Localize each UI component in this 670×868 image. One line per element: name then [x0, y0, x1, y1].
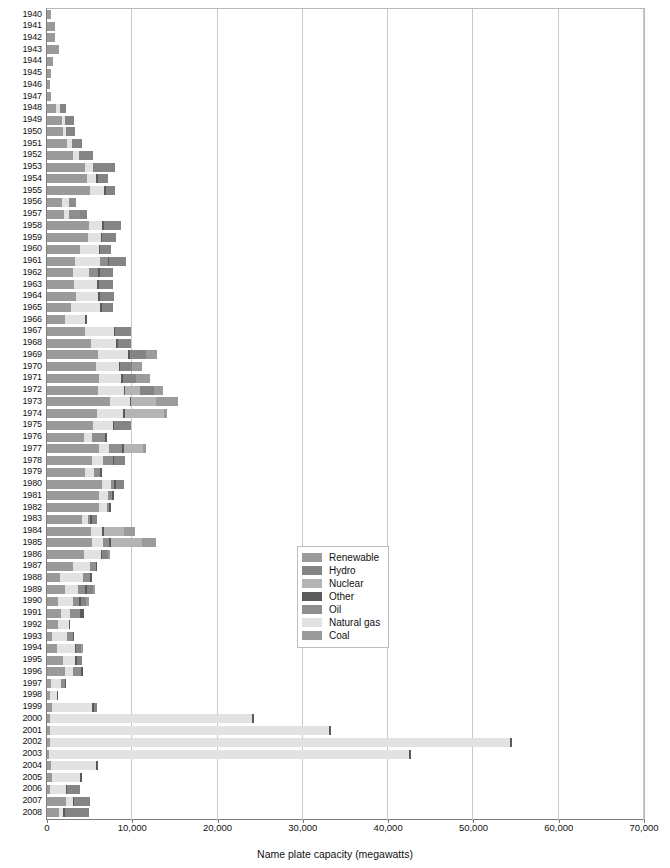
bar-segment: [61, 609, 70, 618]
y-axis-label: 1977: [0, 443, 42, 453]
bar-row: [47, 550, 110, 559]
bar-row: [47, 45, 59, 54]
bar-segment: [47, 444, 99, 453]
bar-segment: [79, 151, 93, 160]
y-axis-label: 1945: [0, 67, 42, 77]
bars-layer: [47, 9, 645, 819]
bar-segment: [57, 691, 58, 700]
bar-segment: [47, 257, 75, 266]
bar-segment: [106, 186, 115, 195]
bar-segment: [69, 210, 80, 219]
bar-segment: [60, 573, 83, 582]
bar-row: [47, 22, 55, 31]
bar-segment: [146, 350, 157, 359]
bar-segment: [125, 409, 164, 418]
y-axis-label: 1989: [0, 584, 42, 594]
bar-segment: [47, 350, 98, 359]
bar-segment: [58, 597, 73, 606]
bar-row: [47, 444, 146, 453]
y-axis-label: 1956: [0, 196, 42, 206]
bar-row: [47, 667, 83, 676]
y-axis-label: 1984: [0, 525, 42, 535]
bar-segment: [73, 562, 90, 571]
y-axis-label: 1957: [0, 208, 42, 218]
bar-segment: [66, 797, 73, 806]
bar-segment: [99, 444, 109, 453]
bar-segment: [99, 503, 107, 512]
bar-segment: [50, 726, 329, 735]
bar-row: [47, 245, 111, 254]
bar-segment: [47, 503, 99, 512]
bar-segment: [96, 362, 118, 371]
bar-row: [47, 703, 97, 712]
y-axis-label: 1948: [0, 102, 42, 112]
bar-segment: [120, 362, 132, 371]
y-axis-label: 1971: [0, 372, 42, 382]
bar-segment: [100, 468, 102, 477]
bar-segment: [104, 221, 121, 230]
y-axis-label: 1979: [0, 466, 42, 476]
bar-segment: [47, 585, 65, 594]
bar-segment: [92, 433, 105, 442]
bar-segment: [142, 538, 156, 547]
bar-segment: [93, 585, 96, 594]
bar-segment: [47, 609, 61, 618]
y-axis-label: 1985: [0, 537, 42, 547]
bar-segment: [69, 198, 76, 207]
y-axis-label: 2005: [0, 772, 42, 782]
bar-segment: [80, 609, 83, 618]
legend-item[interactable]: Natural gas: [302, 616, 380, 629]
bar-row: [47, 480, 124, 489]
bar-segment: [88, 233, 101, 242]
y-axis-label: 1996: [0, 666, 42, 676]
y-axis-year-labels: 1940194119421943194419451946194719481949…: [0, 8, 42, 820]
y-axis-label: 1982: [0, 502, 42, 512]
bar-row: [47, 92, 51, 101]
bar-row: [47, 327, 131, 336]
bar-row: [47, 656, 82, 665]
y-axis-label: 2004: [0, 760, 42, 770]
bar-row: [47, 785, 80, 794]
y-axis-label: 1966: [0, 314, 42, 324]
bar-segment: [47, 362, 96, 371]
y-axis-label: 1968: [0, 337, 42, 347]
bar-segment: [65, 116, 74, 125]
y-axis-label: 1959: [0, 232, 42, 242]
bar-segment: [47, 80, 50, 89]
legend-swatch: [302, 605, 322, 614]
bar-segment: [123, 374, 136, 383]
y-axis-label: 1949: [0, 114, 42, 124]
legend-item[interactable]: Nuclear: [302, 577, 380, 590]
legend-label: Other: [329, 591, 354, 603]
bar-row: [47, 761, 98, 770]
x-axis-tick-label: 70,000: [629, 822, 658, 834]
bar-segment: [96, 761, 97, 770]
bar-segment: [98, 350, 128, 359]
bar-segment: [65, 667, 73, 676]
bar-segment: [74, 280, 97, 289]
legend-item[interactable]: Hydro: [302, 564, 380, 577]
bar-row: [47, 562, 97, 571]
legend-item[interactable]: Renewable: [302, 551, 380, 564]
bar-segment: [87, 174, 96, 183]
bar-row: [47, 538, 156, 547]
bar-segment: [103, 456, 112, 465]
y-axis-label: 1953: [0, 161, 42, 171]
bar-segment: [131, 397, 156, 406]
bar-segment: [47, 303, 71, 312]
bar-segment: [92, 538, 103, 547]
bar-segment: [97, 409, 123, 418]
bar-row: [47, 726, 331, 735]
bar-row: [47, 409, 167, 418]
legend-item[interactable]: Other: [302, 590, 380, 603]
bar-segment: [47, 515, 82, 524]
bar-segment: [67, 785, 80, 794]
bar-segment: [102, 480, 111, 489]
bar-segment: [136, 374, 150, 383]
legend-item[interactable]: Coal: [302, 629, 380, 642]
bar-segment: [47, 550, 84, 559]
legend-item[interactable]: Oil: [302, 603, 380, 616]
bar-segment: [102, 303, 113, 312]
bar-segment: [71, 303, 100, 312]
bar-segment: [47, 491, 99, 500]
